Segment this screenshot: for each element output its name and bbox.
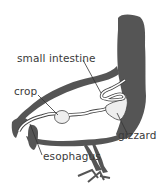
- belly-outline: [26, 132, 126, 146]
- crop-organ: [55, 111, 70, 124]
- label-esophagus: esophagus: [43, 151, 101, 162]
- label-small-intestine: small intestine: [17, 53, 96, 64]
- label-crop: crop: [14, 86, 37, 97]
- neck-silhouette: [28, 125, 38, 150]
- label-gizzard: gizzard: [118, 130, 157, 141]
